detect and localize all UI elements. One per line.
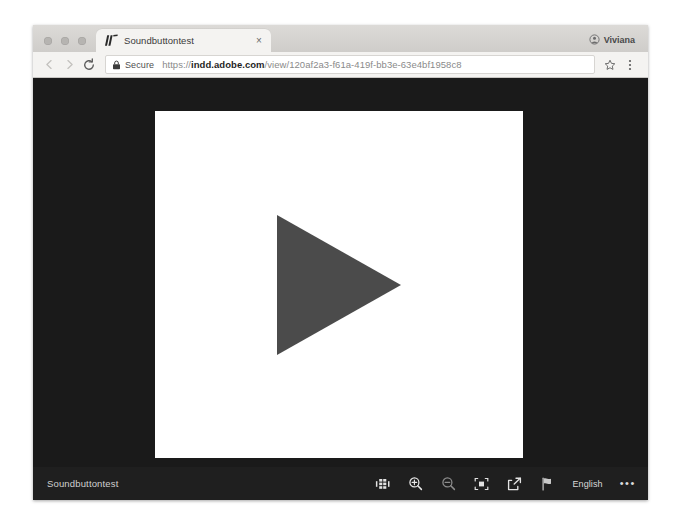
browser-toolbar: Secure https://indd.adobe.com/view/120af… (33, 52, 648, 78)
language-button[interactable] (539, 476, 555, 492)
page-thumbnails-button[interactable] (374, 476, 390, 492)
flag-icon (541, 477, 554, 491)
browser-window: Soundbuttontest × Viviana (33, 25, 648, 500)
security-status-label: Secure (125, 60, 154, 70)
browser-tab-title: Soundbuttontest (124, 35, 249, 46)
tab-strip-empty-area (271, 25, 589, 52)
browser-tab-soundbuttontest[interactable]: Soundbuttontest × (96, 29, 271, 52)
grid-pages-icon (375, 477, 390, 491)
share-icon (507, 477, 522, 491)
close-icon[interactable]: × (253, 35, 265, 47)
star-icon (604, 59, 616, 71)
profile-name: Viviana (604, 35, 635, 45)
reload-button[interactable] (79, 55, 99, 75)
language-label[interactable]: English (572, 479, 602, 489)
back-button[interactable] (39, 55, 59, 75)
magnifier-minus-icon (441, 476, 456, 491)
window-controls (33, 37, 96, 52)
viewer-toolbar: Soundbuttontest (33, 467, 648, 500)
magnifier-plus-icon (408, 476, 423, 491)
zoom-in-button[interactable] (407, 476, 423, 492)
close-window-button[interactable] (44, 37, 52, 45)
arrow-right-icon (63, 58, 76, 71)
play-button[interactable] (277, 215, 401, 355)
tab-strip: Soundbuttontest × Viviana (33, 25, 648, 52)
publish-online-viewer-stage: Soundbuttontest (33, 78, 648, 500)
minimize-window-button[interactable] (61, 37, 69, 45)
url-path: /view/120af2a3-f61a-419f-bb3e-63e4bf1958… (265, 59, 462, 70)
chrome-menu-button[interactable] (620, 55, 640, 75)
fit-screen-icon (474, 477, 489, 491)
bookmark-star-button[interactable] (600, 55, 620, 75)
profile-avatar-icon (589, 34, 600, 45)
url-host: indd.adobe.com (191, 59, 265, 70)
forward-button[interactable] (59, 55, 79, 75)
viewer-toolbar-actions: English ••• (374, 476, 636, 492)
adobe-indesign-favicon (105, 34, 118, 47)
profile-chip[interactable]: Viviana (589, 34, 648, 52)
share-button[interactable] (506, 476, 522, 492)
address-bar[interactable]: Secure https://indd.adobe.com/view/120af… (105, 55, 595, 74)
reload-icon (82, 58, 96, 72)
document-page[interactable] (155, 111, 523, 458)
viewer-document-title: Soundbuttontest (47, 478, 118, 489)
more-options-button[interactable]: ••• (620, 478, 636, 489)
address-bar-url: https://indd.adobe.com/view/120af2a3-f61… (162, 59, 461, 70)
url-scheme: https:// (162, 59, 191, 70)
arrow-left-icon (43, 58, 56, 71)
three-dot-menu-icon (624, 58, 636, 72)
maximize-window-button[interactable] (78, 37, 86, 45)
fit-page-button[interactable] (473, 476, 489, 492)
zoom-out-button[interactable] (440, 476, 456, 492)
lock-icon (112, 60, 121, 70)
